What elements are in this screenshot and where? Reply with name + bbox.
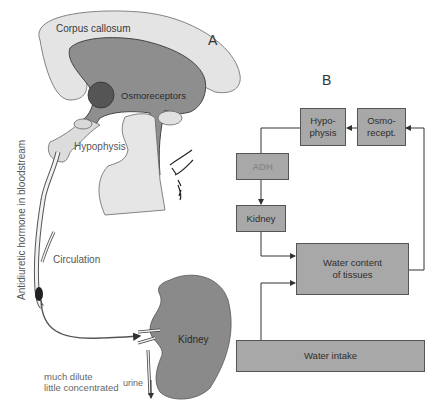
label-much-dilute: much dilute <box>44 372 93 382</box>
label-urine: urine <box>123 379 143 389</box>
box-osmorecept: Osmo-recept. <box>357 108 406 146</box>
edge-kidney-water <box>261 231 295 256</box>
pituitary-lobe <box>74 119 92 129</box>
box-water-intake: Water intake <box>236 340 425 372</box>
label-osmoreceptors: Osmoreceptors <box>121 91 186 101</box>
box-water-content-line2: of tissues <box>332 269 372 280</box>
label-hypophysis: Hypophysis <box>74 141 126 152</box>
box-hypophysis-line2: physis <box>310 127 337 138</box>
label-kidney-organ: Kidney <box>178 334 209 345</box>
label-circulation: Circulation <box>53 254 100 265</box>
nerve-branches <box>170 150 193 200</box>
hormone-blob <box>35 287 43 301</box>
panel-letter-b: B <box>322 72 331 88</box>
osmoreceptor-dot <box>88 82 114 108</box>
label-corpus-callosum: Corpus callosum <box>56 23 130 34</box>
box-water-content-line1: Water content <box>323 257 382 268</box>
label-bloodstream: Antidiuretic hormone in bloodstream <box>16 140 27 300</box>
edge-hypophysis-adh <box>261 128 300 153</box>
posterior-lobe <box>158 111 182 125</box>
edge-intake-water <box>261 283 295 340</box>
box-hypophysis-line1: Hypo- <box>310 115 335 126</box>
panel-letter-a: A <box>208 32 217 48</box>
box-water-content: Water contentof tissues <box>296 243 409 295</box>
label-little-concentrated: little concentrated <box>44 383 118 393</box>
brainstem-shape <box>99 114 165 215</box>
box-adh: ADH <box>236 153 289 180</box>
circulation-path <box>41 300 140 338</box>
box-osmorecept-line1: Osmo- <box>367 115 396 126</box>
box-osmorecept-line2: recept. <box>367 127 396 138</box>
box-kidney: Kidney <box>236 205 286 232</box>
box-hypophysis: Hypo-physis <box>300 108 346 146</box>
